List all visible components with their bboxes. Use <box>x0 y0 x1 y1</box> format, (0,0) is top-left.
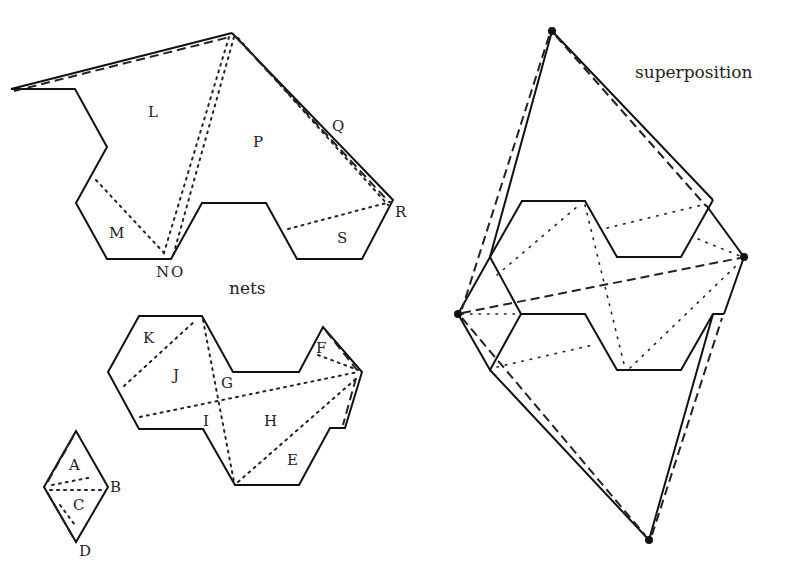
label-R: R <box>395 203 407 221</box>
superposition-hex-lower <box>521 314 724 370</box>
fold-line <box>96 180 165 254</box>
fold-line <box>318 355 358 370</box>
net-top-outline <box>11 33 393 259</box>
superposition-dash <box>462 36 549 309</box>
label-P: P <box>253 133 263 151</box>
superposition-edge <box>706 205 744 257</box>
superposition-hex-upper <box>490 200 713 257</box>
net-top-dash-right <box>236 37 389 202</box>
fold-line <box>124 320 196 386</box>
label-Q: Q <box>332 117 344 135</box>
label-F: F <box>316 339 326 357</box>
net-middle: K J G F I H E <box>108 316 362 485</box>
fold-line <box>173 37 234 256</box>
superposition-figure <box>454 27 748 544</box>
fold-line <box>497 206 578 275</box>
superposition-edge <box>724 257 744 314</box>
caption-superposition: superposition <box>635 62 753 82</box>
label-G: G <box>221 374 233 392</box>
label-J: J <box>171 366 179 384</box>
label-A: A <box>68 456 80 474</box>
caption-nets: nets <box>229 278 266 298</box>
label-H: H <box>264 412 277 430</box>
vertex-dot-bottom <box>645 536 653 544</box>
label-M: M <box>109 224 124 242</box>
superposition-outer-solid <box>490 314 713 540</box>
net-small: A B C D <box>44 431 121 560</box>
label-K: K <box>143 329 155 347</box>
label-E: E <box>287 451 298 469</box>
label-B: B <box>110 478 121 496</box>
vertex-dot-right <box>740 253 748 261</box>
label-D: D <box>79 542 91 560</box>
fold-line <box>52 477 93 485</box>
label-O: O <box>171 263 183 281</box>
fold-line <box>288 202 390 229</box>
superposition-dash <box>652 318 722 535</box>
superposition-dash-diagonal <box>462 258 740 313</box>
fold-line <box>163 37 229 256</box>
label-N: N <box>156 263 169 281</box>
vertex-dot-top <box>548 27 556 35</box>
fold-line <box>497 345 593 367</box>
fold-line <box>607 205 702 228</box>
net-small-outline <box>44 431 108 542</box>
net-top: L M N O P Q R S <box>11 33 407 281</box>
vertex-dot-left <box>454 310 462 318</box>
label-S: S <box>337 229 347 247</box>
superposition-dash <box>462 318 645 535</box>
label-L: L <box>148 103 158 121</box>
label-I: I <box>203 412 209 430</box>
diagram-canvas: L M N O P Q R S nets K J G F I H E A B <box>0 0 800 579</box>
net-top-dash-upper <box>14 37 230 91</box>
net-middle-dash <box>326 331 357 370</box>
label-C: C <box>73 496 84 514</box>
